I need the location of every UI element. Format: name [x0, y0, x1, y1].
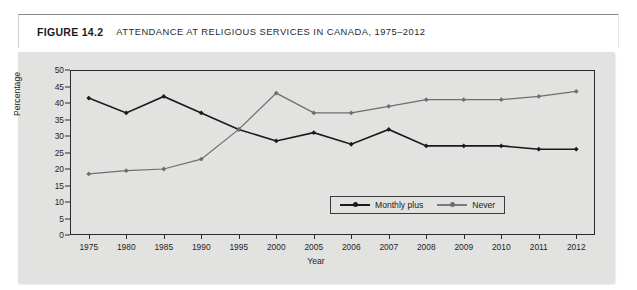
- data-point-marker: [86, 96, 91, 101]
- series-line: [89, 91, 577, 174]
- data-point-marker: [311, 130, 316, 135]
- legend-line-swatch-never: [437, 201, 467, 209]
- series-line: [89, 96, 577, 149]
- data-point-marker: [161, 167, 166, 172]
- data-point-marker: [574, 147, 579, 152]
- data-point-marker: [274, 139, 279, 144]
- data-point-marker: [311, 111, 316, 116]
- data-point-marker: [199, 111, 204, 116]
- data-point-marker: [124, 168, 129, 173]
- data-point-marker: [461, 144, 466, 149]
- data-point-marker: [386, 127, 391, 132]
- data-point-marker: [424, 144, 429, 149]
- data-point-marker: [424, 97, 429, 102]
- series-monthly-plus: [86, 94, 578, 152]
- data-point-marker: [86, 172, 91, 177]
- figure-title-band: FIGURE 14.2 ATTENDANCE AT RELIGIOUS SERV…: [18, 14, 619, 48]
- chart-legend: Monthly plus Never: [330, 196, 505, 214]
- data-point-marker: [536, 94, 541, 99]
- legend-item-monthly-plus[interactable]: Monthly plus: [340, 200, 423, 210]
- data-point-marker: [461, 97, 466, 102]
- page-title: ATTENDANCE AT RELIGIOUS SERVICES IN CANA…: [116, 26, 425, 37]
- figure-container: FIGURE 14.2 ATTENDANCE AT RELIGIOUS SERV…: [0, 0, 637, 290]
- legend-label-monthly-plus: Monthly plus: [375, 200, 423, 210]
- data-point-marker: [536, 147, 541, 152]
- figure-number: FIGURE 14.2: [37, 26, 103, 38]
- data-point-marker: [124, 111, 129, 116]
- chart-panel: Percentage Year 05101520253035404550 197…: [18, 52, 614, 283]
- data-point-marker: [349, 111, 354, 116]
- data-point-marker: [386, 104, 391, 109]
- data-point-marker: [161, 94, 166, 99]
- series-layer: [18, 52, 614, 283]
- data-point-marker: [574, 89, 579, 94]
- data-point-marker: [499, 97, 504, 102]
- data-point-marker: [349, 142, 354, 147]
- data-point-marker: [499, 144, 504, 149]
- legend-label-never: Never: [472, 200, 495, 210]
- series-never: [86, 89, 578, 176]
- legend-item-never[interactable]: Never: [437, 200, 495, 210]
- legend-line-swatch-monthly-plus: [340, 201, 370, 209]
